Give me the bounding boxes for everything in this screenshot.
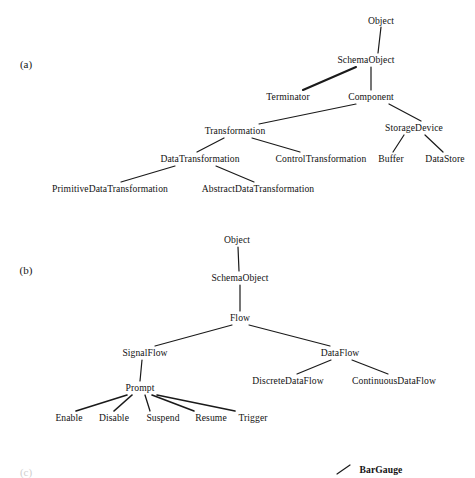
node-a-schemaobject: SchemaObject — [337, 55, 394, 65]
edge-b-object-schemaobject — [238, 247, 239, 271]
edge-transformation-datatransformation — [197, 138, 224, 152]
node-b-prompt: Prompt — [126, 383, 155, 393]
figure-root: (a) (b) (c) Object SchemaObject Terminat… — [0, 0, 475, 478]
node-a-transformation: Transformation — [205, 126, 266, 136]
panel-label-b: (b) — [20, 265, 33, 276]
node-a-terminator: Terminator — [266, 92, 309, 102]
edge-b-dataflow-discretedataflow — [297, 360, 331, 374]
edge-b-prompt-disable — [114, 395, 132, 411]
node-b-discretedataflow: DiscreteDataFlow — [252, 376, 323, 386]
edge-b-flow-signalflow — [155, 325, 232, 346]
node-b-schemaobject: SchemaObject — [211, 273, 268, 283]
node-b-dataflow: DataFlow — [321, 348, 360, 358]
node-a-component: Component — [348, 92, 394, 102]
edge-b-prompt-suspend — [145, 395, 150, 411]
edge-storagedevice-buffer — [393, 135, 404, 152]
node-b-disable: Disable — [99, 413, 129, 423]
node-b-continuousdataflow: ContinuousDataFlow — [352, 376, 436, 386]
diagram-c-edges — [337, 465, 350, 474]
edge-component-storagedevice — [389, 104, 421, 121]
edge-component-transformation — [259, 104, 356, 124]
node-a-datastore: DataStore — [425, 154, 464, 164]
edge-b-signalflow-prompt — [140, 360, 142, 381]
node-c-bargauge: BarGauge — [360, 465, 403, 475]
node-a-abstractdatatransformation: AbstractDataTransformation — [202, 184, 315, 194]
node-b-enable: Enable — [55, 413, 82, 423]
node-a-buffer: Buffer — [378, 154, 403, 164]
node-b-signalflow: SignalFlow — [122, 348, 167, 358]
node-b-trigger: Trigger — [238, 413, 267, 423]
node-b-suspend: Suspend — [146, 413, 179, 423]
edge-b-dataflow-continuousdataflow — [352, 360, 388, 374]
panel-label-a: (a) — [20, 59, 32, 70]
edge-schemaobject-terminator — [303, 67, 356, 90]
node-b-object: Object — [224, 235, 250, 245]
edge-b-prompt-resume — [152, 395, 194, 411]
edge-transformation-controltransformation — [252, 138, 300, 152]
edge-datatransformation-primitivedatatransformation — [121, 166, 175, 182]
edge-storagedevice-datastore — [425, 135, 443, 152]
node-a-object: Object — [368, 16, 394, 26]
edge-b-prompt-enable — [76, 395, 127, 411]
node-b-resume: Resume — [195, 413, 227, 423]
node-a-datatransformation: DataTransformation — [160, 154, 239, 164]
edge-datatransformation-abstractdatatransformation — [216, 166, 254, 182]
edge-b-flow-dataflow — [249, 325, 330, 346]
node-a-storagedevice: StorageDevice — [385, 123, 443, 133]
node-a-controltransformation: ControlTransformation — [276, 154, 367, 164]
edge-object-schemaobject — [378, 27, 381, 53]
edge-c-parent-bargauge — [337, 465, 350, 474]
edge-b-prompt-trigger — [157, 395, 235, 411]
node-a-primitivedatatransformation: PrimitiveDataTransformation — [52, 184, 168, 194]
node-b-flow: Flow — [230, 313, 250, 323]
panel-label-c: (c) — [20, 467, 32, 478]
